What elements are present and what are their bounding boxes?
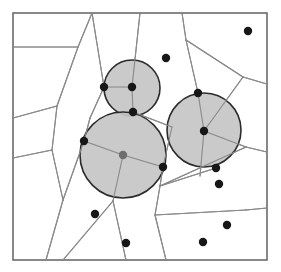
edge-left-lower: [52, 106, 57, 150]
edge-lower-band-border: [246, 208, 267, 210]
site-9: [212, 164, 220, 172]
edge-site1-down: [90, 87, 104, 118]
edge-lower-mid: [155, 186, 160, 215]
site-7: [194, 89, 202, 97]
site-8: [200, 127, 208, 135]
site-5: [119, 151, 127, 159]
edge-right-to-border: [243, 77, 267, 84]
site-11: [244, 27, 252, 35]
edge-lower-band: [155, 210, 246, 215]
site-13: [223, 221, 231, 229]
site-1: [100, 83, 108, 91]
site-10: [162, 54, 170, 62]
edge-left-cell-bottom: [46, 200, 63, 260]
site-3: [129, 108, 137, 116]
site-16: [91, 210, 99, 218]
site-2: [128, 83, 136, 91]
edge-right-mid-border: [246, 147, 267, 152]
edge-left-to-border: [13, 106, 57, 118]
edge-up-to-top: [182, 13, 186, 40]
edge-hub-down-right: [113, 201, 126, 260]
edge-mid-left-vertical: [92, 13, 104, 87]
site-4: [80, 137, 88, 145]
site-12: [215, 180, 223, 188]
edge-left-long-diagonal: [57, 47, 78, 106]
edge-site7-up: [186, 40, 198, 93]
edge-site9-left: [160, 168, 216, 186]
edge-lower-mid-down: [155, 215, 166, 260]
edge-hub-down-left: [63, 201, 113, 260]
disks-layer: [80, 60, 241, 198]
edge-top-right-diagonal: [186, 40, 243, 77]
site-15: [122, 239, 130, 247]
voronoi-diagram: [0, 0, 281, 272]
site-14: [199, 238, 207, 246]
site-6: [159, 163, 167, 171]
edge-up-to-top-border: [78, 13, 92, 47]
edge-center-left-diag: [63, 141, 84, 200]
edge-left-cell-down: [52, 150, 63, 200]
voronoi-figure: [0, 0, 281, 272]
edge-left-lower-to-border: [13, 150, 52, 158]
